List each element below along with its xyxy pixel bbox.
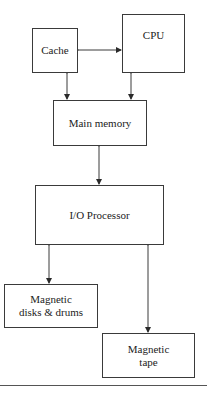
io-processor-label: I/O Processor <box>69 209 129 222</box>
cache-label: Cache <box>41 44 68 57</box>
magnetic-tape-label: Magnetic tape <box>128 343 170 369</box>
cache-box: Cache <box>32 28 78 73</box>
cpu-box: CPU <box>122 14 185 73</box>
main-memory-box: Main memory <box>53 100 147 146</box>
io-processor-box: I/O Processor <box>35 185 164 245</box>
magnetic-tape-box: Magnetic tape <box>102 333 195 378</box>
magnetic-disks-box: Magnetic disks & drums <box>4 284 98 328</box>
main-memory-label: Main memory <box>69 117 132 130</box>
cpu-label: CPU <box>143 29 164 42</box>
magnetic-disks-label: Magnetic disks & drums <box>19 293 83 319</box>
bottom-rule-divider <box>0 385 207 386</box>
